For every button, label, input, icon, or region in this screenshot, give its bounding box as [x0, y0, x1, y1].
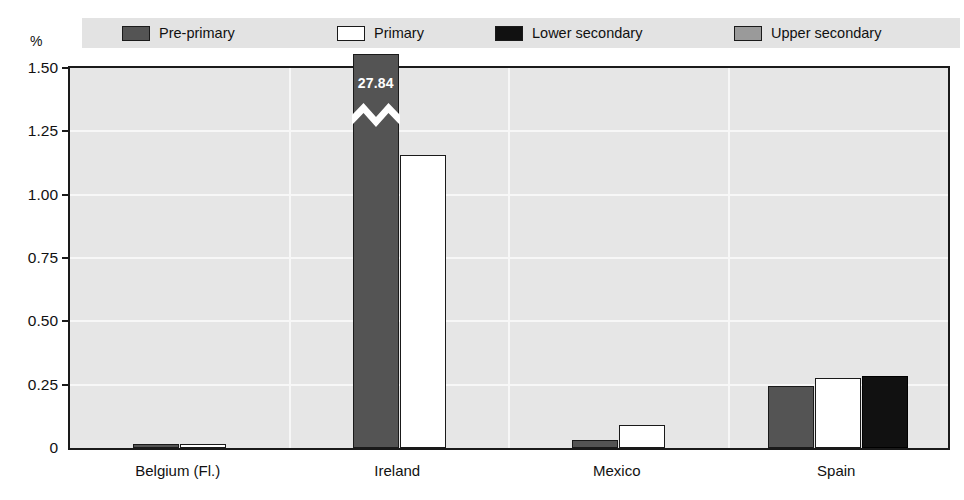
- y-axis-tick-mark: [62, 67, 70, 69]
- y-axis-tick-mark: [62, 320, 70, 322]
- bar-mexico-pre-primary: [572, 440, 618, 448]
- bar-ireland-pre-primary: 27.84: [353, 54, 399, 448]
- legend-label-pre-primary: Pre-primary: [159, 26, 235, 41]
- x-axis-label-ireland: Ireland: [374, 462, 420, 479]
- y-axis-tick-label: 0.25: [0, 376, 58, 394]
- bar-spain-pre-primary: [768, 386, 814, 448]
- bar-value-label: 27.84: [358, 75, 394, 91]
- bar-belgium-fl-primary: [180, 444, 226, 448]
- gridline-vertical: [508, 68, 510, 448]
- bar-spain-lower-secondary: [862, 376, 908, 448]
- bar-mexico-primary: [619, 425, 665, 448]
- legend-label-lower-secondary: Lower secondary: [532, 26, 642, 41]
- chart-plot-area: 27.84 00.250.500.751.001.251.50: [68, 66, 950, 450]
- legend-item-upper-secondary: Upper secondary: [734, 26, 881, 41]
- x-axis-label-belgium-fl: Belgium (Fl.): [135, 462, 220, 479]
- gridline-vertical: [289, 68, 291, 448]
- y-axis-tick-label: 1.25: [0, 122, 58, 140]
- x-axis-label-spain: Spain: [817, 462, 855, 479]
- y-axis-unit-label: %: [30, 33, 42, 49]
- y-axis-tick-label: 0: [0, 439, 58, 457]
- chart-legend: Pre-primary Primary Lower secondary Uppe…: [82, 18, 960, 48]
- y-axis-tick-label: 0.75: [0, 249, 58, 267]
- y-axis-tick-label: 1.00: [0, 186, 58, 204]
- y-axis-tick-label: 0.50: [0, 312, 58, 330]
- legend-swatch-pre-primary: [122, 26, 150, 41]
- y-axis-tick-mark: [62, 194, 70, 196]
- bar-spain-primary: [815, 378, 861, 448]
- bar-belgium-fl-pre-primary: [133, 444, 179, 448]
- bar-ireland-primary: [400, 155, 446, 448]
- legend-swatch-lower-secondary: [495, 26, 523, 41]
- gridline-vertical: [728, 68, 730, 448]
- y-axis-tick-mark: [62, 130, 70, 132]
- chart-plot-inner: [70, 68, 948, 448]
- legend-swatch-upper-secondary: [734, 26, 762, 41]
- legend-swatch-primary: [337, 26, 365, 41]
- legend-label-primary: Primary: [374, 26, 424, 41]
- x-axis-label-mexico: Mexico: [593, 462, 641, 479]
- axis-break-zigzag-icon: [352, 103, 400, 137]
- y-axis-tick-label: 1.50: [0, 59, 58, 77]
- legend-item-lower-secondary: Lower secondary: [495, 26, 642, 41]
- y-axis-tick-mark: [62, 384, 70, 386]
- y-axis-tick-mark: [62, 257, 70, 259]
- legend-item-pre-primary: Pre-primary: [122, 26, 235, 41]
- legend-item-primary: Primary: [337, 26, 424, 41]
- legend-label-upper-secondary: Upper secondary: [771, 26, 881, 41]
